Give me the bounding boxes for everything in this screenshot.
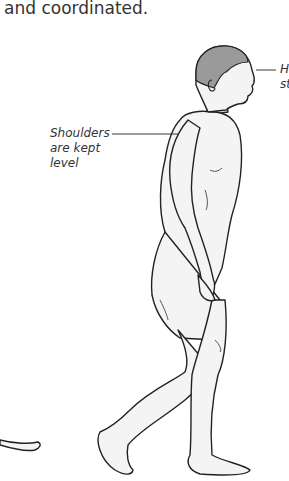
callout-line-text: st [280, 77, 289, 92]
callout-head-steady: He st [280, 62, 289, 92]
walking-figure-illustration [0, 0, 289, 481]
callout-shoulders-level: Shoulders are kept level [50, 126, 110, 171]
callout-line-text: He [280, 62, 289, 77]
callout-line-text: are kept [50, 141, 110, 156]
callout-line-text: level [50, 156, 110, 171]
callout-line-text: Shoulders [50, 126, 110, 141]
